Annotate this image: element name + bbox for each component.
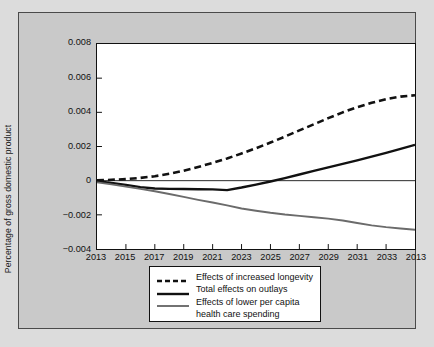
x-tick-label: 2021 [202,253,222,262]
legend-label: Total effects on outlays [196,285,287,294]
x-tick-label: 2013 [86,253,106,262]
legend-swatch-solid [156,285,190,295]
y-axis-title: Percentage of gross domestic product [3,99,13,299]
y-tick-label: −0.002 [63,211,91,220]
y-tick-label: 0.006 [68,73,91,82]
plot-svg [97,44,415,249]
legend-item-2: Effects of lower per capita [150,296,320,309]
x-tick-label: 2025 [260,253,280,262]
legend-label: Effects of lower per capita [196,298,299,307]
x-tick-label: 2017 [144,253,164,262]
x-tick-label: 2023 [231,253,251,262]
x-tick-label: 2027 [289,253,309,262]
legend-swatch-solid [156,297,190,307]
y-tick-label: 0.008 [68,38,91,47]
y-axis-tick-labels: 0.0080.0060.0040.0020−0.002−0.004 [37,13,91,330]
chart-legend: Effects of increased longevityTotal effe… [149,266,321,322]
series-line-2 [97,182,415,229]
legend-item-0: Effects of increased longevity [150,271,320,284]
series-line-0 [97,95,415,180]
legend-label-continuation: health care spending [156,310,280,319]
x-tick-label: 2015 [115,253,135,262]
x-tick-label: 2019 [173,253,193,262]
series-line-1 [97,145,415,190]
figure-panel: Percentage of gross domestic product 0.0… [18,12,416,329]
y-tick-label: 0.004 [68,107,91,116]
x-tick-label: 2029 [318,253,338,262]
legend-item-1: Total effects on outlays [150,284,320,297]
legend-swatch-dashed [156,272,190,282]
y-tick-label: 0.002 [68,142,91,151]
y-tick-label: 0 [86,176,91,185]
x-tick-label: 2033 [377,253,397,262]
x-tick-label: 2031 [348,253,368,262]
x-tick-label: 2013 [406,253,426,262]
plot-area [96,43,416,250]
figure-root: Percentage of gross domestic product 0.0… [0,0,434,347]
legend-label: Effects of increased longevity [196,273,313,282]
